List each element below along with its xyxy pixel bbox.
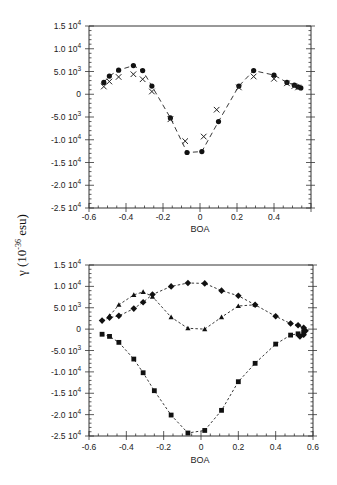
data-point-square	[202, 428, 207, 433]
x-tick-label: -0.2	[156, 442, 171, 452]
data-point-circle	[199, 149, 204, 154]
y-tick-label: 1.0 104	[54, 42, 82, 54]
data-point-triangle	[107, 313, 112, 318]
data-point-circle	[131, 63, 136, 68]
series-crosses	[101, 71, 301, 143]
y-tick-label: -5.0 103	[51, 110, 81, 122]
x-tick-label: 0.6	[307, 442, 319, 452]
data-point-triangle	[202, 327, 207, 332]
y-tick-label: -2.5 104	[51, 429, 81, 441]
top-plot: 1.5 1041.0 1045.0 1030-5.0 103-1.0 104-1…	[51, 19, 315, 234]
x-axis-title: BOA	[190, 455, 209, 465]
data-point-square	[253, 361, 258, 366]
data-point-triangle	[116, 302, 121, 307]
data-point-square	[301, 329, 306, 334]
data-point-diamond	[168, 283, 175, 290]
y-tick-label: 5.0 103	[54, 65, 82, 77]
x-tick-label: -0.4	[119, 212, 134, 222]
y-tick-label: -1.0 104	[51, 133, 81, 145]
data-point-x	[116, 74, 122, 80]
data-point-square	[236, 379, 241, 384]
data-point-circle	[149, 83, 154, 88]
data-point-diamond	[185, 280, 192, 287]
data-point-square	[100, 332, 105, 337]
figure: γ (10-36 esu) 1.5 1041.0 1045.0 1030-5.0…	[0, 0, 337, 485]
y-tick-label: 1.5 104	[54, 19, 82, 31]
data-point-triangle	[169, 315, 174, 320]
x-tick-label: 0	[198, 212, 203, 222]
y-tick-label: -5.0 103	[51, 344, 81, 356]
data-point-circle	[116, 68, 121, 73]
data-point-diamond	[218, 287, 225, 294]
data-point-triangle	[141, 289, 146, 294]
series-squares	[100, 329, 306, 435]
data-point-x	[149, 89, 155, 95]
data-point-x	[107, 79, 113, 85]
x-axis-title: BOA	[190, 224, 209, 234]
data-point-square	[288, 333, 293, 338]
y-tick-label: -1.5 104	[51, 386, 81, 398]
data-point-x	[214, 107, 220, 113]
data-point-circle	[184, 150, 189, 155]
data-point-circle	[140, 68, 145, 73]
data-point-square	[141, 370, 146, 375]
series-line	[102, 332, 304, 433]
x-tick-label: 0.4	[270, 442, 282, 452]
x-tick-label: 0.2	[231, 212, 243, 222]
data-point-diamond	[116, 313, 123, 320]
y-tick-label: -2.0 104	[51, 408, 81, 420]
data-point-x	[140, 76, 146, 82]
data-point-diamond	[235, 292, 242, 299]
data-point-triangle	[185, 326, 190, 331]
data-point-square	[273, 342, 278, 347]
svg-text:γ (10-36 esu): γ (10-36 esu)	[14, 214, 29, 277]
y-tick-label: 1.0 104	[54, 279, 82, 291]
y-tick-label: -2.5 104	[51, 201, 81, 213]
series-line	[104, 66, 301, 153]
data-point-x	[201, 134, 207, 140]
x-tick-label: 0.2	[232, 442, 244, 452]
data-point-diamond	[99, 317, 106, 324]
data-point-circle	[107, 73, 112, 78]
data-point-square	[169, 413, 174, 418]
data-point-diamond	[272, 313, 279, 320]
data-point-diamond	[287, 320, 294, 327]
y-tick-label: 1.5 104	[54, 258, 82, 270]
x-tick-label: -0.6	[82, 442, 97, 452]
y-tick-label: 5.0 103	[54, 301, 82, 313]
x-tick-label: -0.6	[82, 212, 97, 222]
x-tick-label: -0.4	[119, 442, 134, 452]
series-line	[110, 292, 256, 329]
data-point-diamond	[131, 305, 138, 312]
data-point-square	[296, 331, 301, 336]
x-tick-label: -0.2	[156, 212, 171, 222]
y-tick-label: 0	[76, 89, 81, 99]
x-tick-label: 0.4	[268, 212, 280, 222]
data-point-x	[182, 138, 188, 144]
shared-y-axis-label: γ (10-36 esu)	[14, 214, 29, 277]
data-point-square	[219, 408, 224, 413]
y-tick-label: 0	[76, 324, 81, 334]
data-point-square	[107, 334, 112, 339]
y-tick-label: -1.5 104	[51, 156, 81, 168]
data-point-triangle	[219, 315, 224, 320]
data-point-square	[186, 431, 191, 436]
bottom-plot: 1.5 1041.0 1045.0 1030-5.0 103-1.0 104-1…	[51, 258, 319, 465]
data-point-x	[131, 71, 137, 77]
data-point-diamond	[295, 322, 302, 329]
data-point-diamond	[201, 280, 208, 287]
y-tick-label: -1.0 104	[51, 365, 81, 377]
data-point-circle	[284, 80, 289, 85]
data-point-circle	[251, 68, 256, 73]
data-point-square	[116, 340, 121, 345]
data-point-square	[152, 388, 157, 393]
data-point-circle	[216, 119, 221, 124]
y-tick-label: -2.0 104	[51, 178, 81, 190]
data-point-x	[251, 74, 257, 80]
x-tick-label: 0	[199, 442, 204, 452]
data-point-square	[131, 357, 136, 362]
